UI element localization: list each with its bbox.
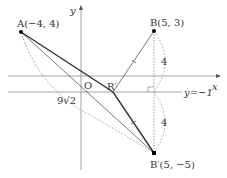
- label-y-axis: y: [69, 5, 76, 16]
- point-A: [19, 30, 23, 34]
- label-Rprime: R′: [107, 81, 118, 92]
- label-x-axis: x: [212, 81, 218, 92]
- x-axis-arrow-icon: [216, 74, 221, 78]
- diagram-canvas: A(−4, 4) B(5, 3) B′(5, −5) R′ O x y y=−1…: [0, 0, 227, 178]
- label-line-y-minus-1: y=−1: [183, 87, 213, 98]
- point-B: [152, 29, 156, 33]
- right-angle-mark: [148, 87, 154, 92]
- segment-A-Bprime: [21, 32, 154, 153]
- label-dist-AB: 9√2: [57, 95, 76, 106]
- point-Bprime: [152, 151, 156, 155]
- label-origin: O: [84, 80, 92, 91]
- y-axis-arrow-icon: [79, 5, 83, 10]
- label-A: A(−4, 4): [16, 18, 60, 29]
- label-B: B(5, 3): [150, 17, 184, 28]
- label-dist-upper: 4: [161, 56, 167, 67]
- label-dist-lower: 4: [161, 117, 167, 128]
- label-Bprime: B′(5, −5): [150, 159, 195, 170]
